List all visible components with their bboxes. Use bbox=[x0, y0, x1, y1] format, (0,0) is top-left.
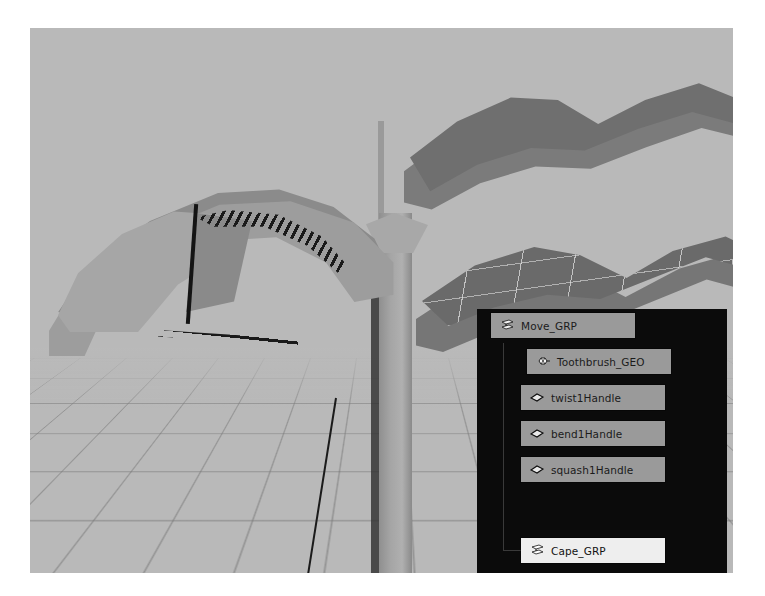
transform-group-icon bbox=[528, 543, 546, 559]
viewport-3d[interactable]: Move_GRP Toothbrush_GEO bbox=[30, 28, 733, 573]
transform-group-icon bbox=[498, 318, 516, 334]
outliner-item-toothbrush-geo[interactable]: Toothbrush_GEO bbox=[527, 349, 671, 374]
outliner-item-bend1handle[interactable]: bend1Handle bbox=[521, 421, 665, 446]
outliner-item-label: twist1Handle bbox=[551, 392, 621, 404]
deformer-handle-icon bbox=[528, 426, 546, 442]
screenshot-root: Move_GRP Toothbrush_GEO bbox=[0, 0, 765, 596]
outliner-item-label: bend1Handle bbox=[551, 428, 622, 440]
outliner-item-label: squash1Handle bbox=[551, 464, 633, 476]
deformer-handle-icon bbox=[528, 390, 546, 406]
outliner-item-label: Move_GRP bbox=[521, 320, 577, 332]
outliner-item-twist1handle[interactable]: twist1Handle bbox=[521, 385, 665, 410]
outliner-item-move-grp[interactable]: Move_GRP bbox=[491, 313, 635, 338]
deformer-handle-icon bbox=[528, 462, 546, 478]
outliner-panel[interactable]: Move_GRP Toothbrush_GEO bbox=[477, 309, 727, 573]
outliner-item-cape-grp[interactable]: Cape_GRP bbox=[521, 538, 665, 563]
tree-connector-vertical bbox=[503, 343, 504, 551]
outliner-item-label: Toothbrush_GEO bbox=[557, 356, 645, 368]
tree-connector-horizontal bbox=[503, 550, 521, 551]
toothbrush-head-dotted-edge-2 bbox=[158, 318, 298, 348]
mesh-icon bbox=[534, 354, 552, 370]
outliner-item-squash1handle[interactable]: squash1Handle bbox=[521, 457, 665, 482]
handle-locator-line bbox=[378, 121, 384, 221]
outliner-item-label: Cape_GRP bbox=[551, 545, 606, 557]
